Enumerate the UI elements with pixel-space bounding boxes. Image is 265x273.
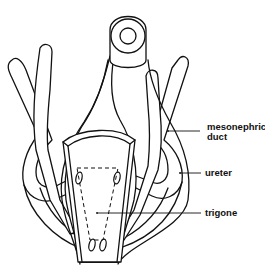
label-mesonephric-line2: duct <box>207 132 265 142</box>
label-ureter-text: ureter <box>205 168 232 178</box>
label-trigone-text: trigone <box>205 208 237 218</box>
label-ureter: ureter <box>205 168 232 178</box>
label-mesonephric-duct: mesonephric duct <box>207 122 265 142</box>
label-trigone: trigone <box>205 208 237 218</box>
allantois-lumen <box>120 28 136 44</box>
